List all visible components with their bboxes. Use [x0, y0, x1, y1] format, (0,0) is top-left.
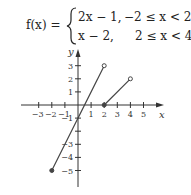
y-tick-label: −1: [61, 114, 73, 123]
y-axis-arrow-icon: [76, 49, 81, 57]
open-endpoint: [128, 77, 132, 81]
y-tick-label: 1: [68, 88, 73, 97]
x-tick-label: 2: [102, 110, 107, 119]
graph: x y −3−2−112345321−1−3−4−5: [0, 0, 191, 195]
y-tick-label: −5: [61, 167, 73, 176]
closed-endpoint: [50, 169, 54, 173]
x-tick-label: −2: [45, 110, 57, 119]
series-line-2: [104, 79, 130, 105]
y-axis-label: y: [67, 46, 74, 57]
x-tick-label: 4: [128, 110, 133, 119]
x-tick-label: 5: [141, 110, 146, 119]
x-tick-label: −3: [32, 110, 44, 119]
x-tick-label: 1: [89, 110, 94, 119]
x-axis-arrow-icon: [156, 103, 164, 108]
x-tick-label: 3: [115, 110, 120, 119]
y-tick-label: 3: [68, 62, 73, 71]
open-endpoint: [102, 64, 106, 68]
x-axis-label: x: [159, 109, 165, 120]
y-tick-label: −4: [61, 153, 73, 162]
y-tick-label: 2: [68, 75, 73, 84]
closed-endpoint: [102, 103, 106, 107]
